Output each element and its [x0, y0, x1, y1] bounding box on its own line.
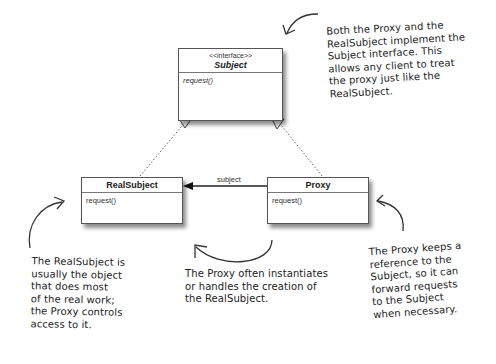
subject-note: Both the Proxy and the RealSubject imple…: [326, 18, 468, 100]
creation-note-arrow-icon: [196, 240, 272, 262]
subject-class-header: <<interface>> Subject: [179, 49, 282, 73]
proxy-note: The Proxy keeps a reference to the Subje…: [368, 240, 466, 321]
subject-class-name: Subject: [179, 60, 282, 71]
subject-class-box[interactable]: <<interface>> Subject request(): [178, 48, 283, 121]
realsubject-note: The RealSubject is usually the object th…: [30, 255, 125, 332]
realsubject-operation: request(): [82, 193, 182, 208]
proxy-note-arrow-icon: [378, 201, 403, 231]
realsubject-class-box[interactable]: RealSubject request(): [81, 177, 183, 224]
realsubject-class-header: RealSubject: [82, 178, 182, 193]
proxy-class-box[interactable]: Proxy request(): [267, 177, 369, 224]
proxy-class-name: Proxy: [268, 180, 368, 191]
proxy-class-header: Proxy: [268, 178, 368, 193]
subject-operation: request(): [179, 73, 282, 88]
association-arrowhead: [183, 182, 193, 190]
realsubject-realization-line: [140, 120, 187, 176]
proxy-operation: request(): [268, 193, 368, 208]
proxy-realization-line: [277, 120, 322, 176]
realsubject-class-name: RealSubject: [82, 180, 182, 191]
association-label: subject: [217, 175, 241, 184]
proxy-note-arrowhead-icon: [377, 195, 385, 206]
subject-stereotype: <<interface>>: [179, 51, 282, 60]
creation-note: The Proxy often instantiates or handles …: [185, 268, 328, 306]
subject-note-arrow-icon: [287, 14, 318, 33]
